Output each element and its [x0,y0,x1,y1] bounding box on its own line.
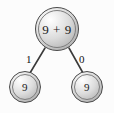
node-right-label: 9 [84,82,90,93]
edge-root-to-left [30,48,45,73]
node-root-expression[interactable]: 9 + 9 [35,7,79,51]
node-root-label: 9 + 9 [42,23,71,36]
diagram-canvas: 9 + 9 9 9 1 0 [0,0,114,113]
node-right-operand[interactable]: 9 [71,71,103,103]
edge-label-right: 0 [79,54,85,65]
edge-label-left: 1 [26,54,32,65]
node-left-operand[interactable]: 9 [9,71,41,103]
node-left-label: 9 [22,82,28,93]
